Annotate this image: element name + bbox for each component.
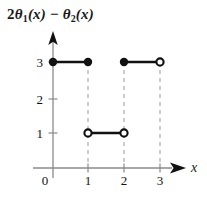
y-tick-label-1: 1 xyxy=(29,127,43,140)
step-function-figure: 2θ1(x) − θ2(x) xyxy=(0,0,207,206)
marker-filled-x1-y3 xyxy=(84,58,92,66)
marker-open-x3-y3 xyxy=(156,58,163,65)
x-axis-name: x xyxy=(191,161,197,175)
marker-open-x1-y1 xyxy=(84,129,91,136)
x-tick-label-1: 1 xyxy=(81,174,95,187)
y-tick-label-3: 3 xyxy=(29,56,43,69)
endpoint-markers xyxy=(49,58,164,137)
vertical-guide-lines xyxy=(88,62,160,166)
x-tick-label-2: 2 xyxy=(117,174,131,187)
y-axis xyxy=(48,31,57,178)
x-axis xyxy=(33,162,186,173)
step-segments xyxy=(53,62,160,133)
marker-open-x2-y1 xyxy=(120,129,127,136)
x-tick-label-0: 0 xyxy=(38,174,52,187)
marker-filled-x2-y3 xyxy=(120,58,128,66)
marker-filled-x0-y3 xyxy=(49,58,57,66)
y-tick-label-2: 2 xyxy=(29,93,43,106)
x-tick-label-3: 3 xyxy=(153,174,167,187)
